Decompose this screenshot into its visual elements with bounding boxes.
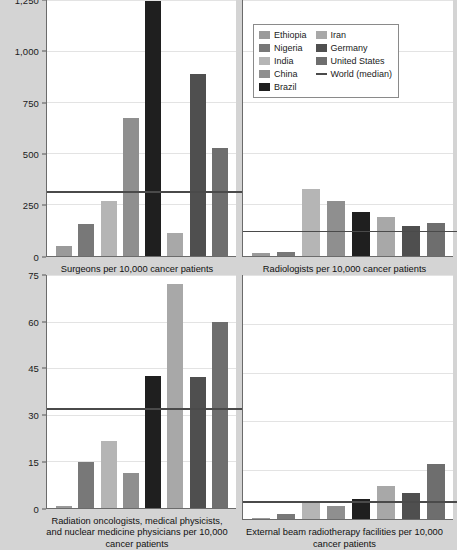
bar-slot — [164, 0, 186, 256]
legend-color-swatch — [259, 31, 270, 39]
bar[interactable] — [167, 284, 183, 507]
legend-item[interactable]: Iran — [316, 29, 392, 41]
legend-item[interactable]: Germany — [316, 42, 392, 54]
bar-slot — [249, 275, 274, 519]
chart-panel-radiotherapy-facilities: External beam radiotherapy facilities pe… — [236, 275, 453, 550]
chart-panel-surgeons: 02505007501,0001,250 Surgeons per 10,000… — [0, 0, 236, 275]
world-median-line — [243, 501, 457, 503]
bar-slot — [120, 275, 142, 508]
plot-area-radiotherapy-facilities — [242, 275, 453, 520]
legend-item-label: Ethiopia — [274, 29, 307, 41]
y-tick-label: 30 — [28, 410, 39, 421]
bar[interactable] — [123, 473, 139, 507]
legend-item-label: Germany — [331, 42, 368, 54]
y-tick-label: 75 — [28, 270, 39, 281]
legend-item-label: China — [274, 68, 298, 80]
y-tick-label: 1,250 — [15, 0, 39, 6]
legend-color-swatch — [259, 83, 270, 91]
bar-slot — [120, 0, 142, 256]
y-tick-label: 500 — [23, 148, 39, 159]
bar-slot — [187, 0, 209, 256]
bar-group — [47, 275, 236, 508]
legend-item-label: Iran — [331, 29, 347, 41]
bar-slot — [75, 275, 97, 508]
bar-slot — [53, 0, 75, 256]
legend-color-swatch — [316, 44, 327, 52]
bar[interactable] — [190, 74, 206, 256]
bar[interactable] — [101, 201, 117, 255]
y-tick-label: 750 — [23, 97, 39, 108]
x-axis-label-radiologists: Radiologists per 10,000 cancer patients — [236, 257, 453, 276]
bar-slot — [142, 0, 164, 256]
bar-slot — [75, 0, 97, 256]
bar-slot — [274, 275, 299, 519]
bar-slot — [398, 0, 423, 256]
bar[interactable] — [377, 217, 395, 256]
bar[interactable] — [352, 212, 370, 256]
legend-item[interactable]: World (median) — [316, 68, 392, 80]
bar-slot — [373, 275, 398, 519]
bar[interactable] — [212, 148, 228, 256]
bar[interactable] — [78, 462, 94, 508]
legend-column: IranGermanyUnited StatesWorld (median) — [316, 29, 392, 93]
y-axis-radiation-oncologists: 01530456075 — [0, 275, 46, 509]
legend-item[interactable]: United States — [316, 55, 392, 67]
bar[interactable] — [302, 502, 320, 519]
bar[interactable] — [123, 118, 139, 256]
bar-group — [47, 0, 236, 256]
bar[interactable] — [252, 253, 270, 255]
bar-slot — [98, 0, 120, 256]
legend-item[interactable]: China — [259, 68, 307, 80]
legend-color-swatch — [259, 70, 270, 78]
y-tick-label: 45 — [28, 363, 39, 374]
bar[interactable] — [427, 223, 445, 255]
plot-area-radiation-oncologists — [46, 275, 236, 509]
bar[interactable] — [252, 518, 270, 519]
legend-item[interactable]: Brazil — [259, 81, 307, 93]
bar[interactable] — [302, 189, 320, 255]
legend-item[interactable]: Ethiopia — [259, 29, 307, 41]
bar-slot — [299, 275, 324, 519]
bar[interactable] — [277, 514, 295, 519]
bar[interactable] — [327, 201, 345, 255]
bar[interactable] — [56, 246, 72, 256]
legend-column: EthiopiaNigeriaIndiaChinaBrazil — [259, 29, 307, 93]
bar[interactable] — [56, 506, 72, 507]
plot-area-surgeons — [46, 0, 236, 257]
bar[interactable] — [402, 493, 420, 519]
x-axis-label-radiation-oncologists: Radiation oncologists, medical physicist… — [0, 509, 236, 550]
legend-item[interactable]: Nigeria — [259, 42, 307, 54]
chart-panel-radiation-oncologists: 01530456075 Radiation oncologists, medic… — [0, 275, 236, 550]
y-tick-label: 15 — [28, 456, 39, 467]
y-axis-surgeons: 02505007501,0001,250 — [0, 0, 46, 257]
legend-color-swatch — [259, 44, 270, 52]
bar-slot — [209, 0, 231, 256]
y-tick-label: 0 — [34, 503, 39, 514]
bar[interactable] — [427, 464, 445, 519]
legend-color-swatch — [259, 57, 270, 65]
bar[interactable] — [145, 376, 161, 507]
legend-line-swatch — [316, 73, 327, 75]
y-tick-label: 1,000 — [15, 46, 39, 57]
bar[interactable] — [212, 322, 228, 508]
bar-slot — [187, 275, 209, 508]
legend-item-label: United States — [331, 55, 385, 67]
legend-item[interactable]: India — [259, 55, 307, 67]
legend-color-swatch — [316, 31, 327, 39]
bar[interactable] — [190, 377, 206, 507]
world-median-line — [47, 408, 242, 410]
bar[interactable] — [327, 506, 345, 519]
world-median-line — [243, 231, 457, 233]
bar-slot — [398, 275, 423, 519]
bar[interactable] — [101, 441, 117, 508]
x-axis-label-radiotherapy-facilities: External beam radiotherapy facilities pe… — [236, 520, 453, 550]
bar[interactable] — [78, 224, 94, 256]
bar-slot — [98, 275, 120, 508]
bar[interactable] — [277, 252, 295, 256]
bar[interactable] — [167, 233, 183, 255]
legend-item-label: India — [274, 55, 294, 67]
legend-item-label: Nigeria — [274, 42, 303, 54]
chart-row-bottom: 01530456075 Radiation oncologists, medic… — [0, 275, 453, 550]
y-tick-label: 250 — [23, 200, 39, 211]
bar[interactable] — [145, 1, 161, 255]
